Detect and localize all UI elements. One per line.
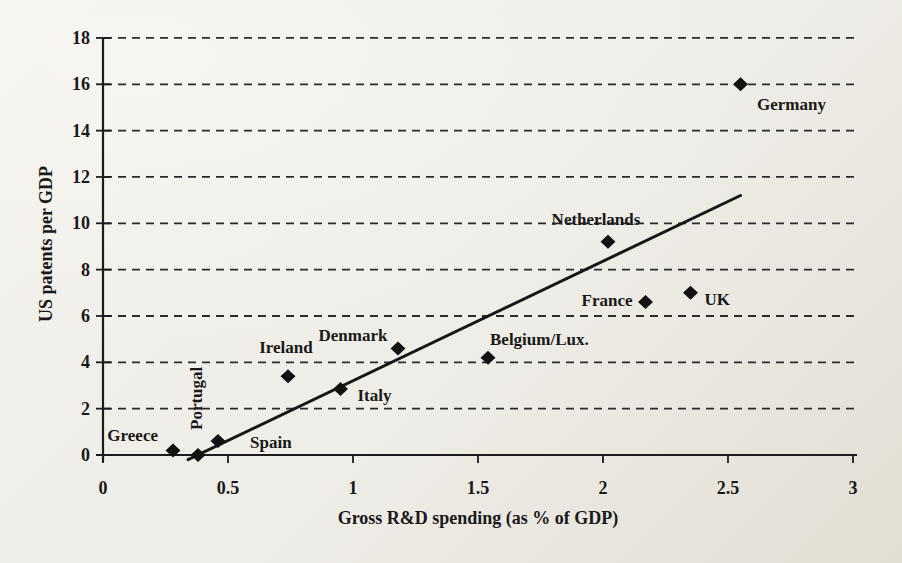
y-tick-label-10: 10 bbox=[72, 213, 90, 233]
y-tick-label-12: 12 bbox=[72, 167, 90, 187]
data-label-greece: Greece bbox=[107, 426, 158, 445]
data-label-portugal: Portugal bbox=[187, 366, 206, 430]
x-tick-label-0.5: 0.5 bbox=[217, 478, 240, 498]
x-tick-label-0: 0 bbox=[99, 478, 108, 498]
data-label-spain: Spain bbox=[250, 433, 292, 452]
data-label-ireland: Ireland bbox=[259, 338, 313, 357]
data-label-france: France bbox=[582, 291, 633, 310]
y-tick-label-14: 14 bbox=[72, 121, 90, 141]
y-tick-label-16: 16 bbox=[72, 74, 90, 94]
data-label-netherlands: Netherlands bbox=[552, 210, 641, 229]
x-tick-label-2.5: 2.5 bbox=[717, 478, 740, 498]
data-point-ireland bbox=[281, 369, 296, 383]
y-tick-label-2: 2 bbox=[81, 399, 90, 419]
y-tick-label-4: 4 bbox=[81, 352, 90, 372]
data-label-belgium-lux: Belgium/Lux. bbox=[490, 330, 589, 349]
data-point-spain bbox=[211, 434, 226, 448]
data-point-germany bbox=[733, 77, 748, 91]
x-tick-label-1: 1 bbox=[349, 478, 358, 498]
data-label-uk: UK bbox=[705, 290, 731, 309]
y-tick-label-8: 8 bbox=[81, 260, 90, 280]
data-point-netherlands bbox=[601, 235, 616, 249]
y-tick-label-6: 6 bbox=[81, 306, 90, 326]
x-tick-label-3: 3 bbox=[849, 478, 858, 498]
data-label-germany: Germany bbox=[757, 95, 826, 114]
y-tick-label-18: 18 bbox=[72, 28, 90, 48]
data-point-france bbox=[638, 295, 653, 309]
x-tick-label-1.5: 1.5 bbox=[467, 478, 490, 498]
y-axis-title: US patents per GDP bbox=[36, 166, 56, 322]
trend-line bbox=[188, 195, 741, 459]
data-label-italy: Italy bbox=[358, 386, 393, 405]
x-tick-label-2: 2 bbox=[599, 478, 608, 498]
data-point-portugal bbox=[191, 448, 206, 462]
y-tick-label-0: 0 bbox=[81, 445, 90, 465]
data-point-uk bbox=[683, 286, 698, 300]
data-point-denmark bbox=[391, 341, 406, 355]
data-label-denmark: Denmark bbox=[319, 326, 388, 345]
x-axis-title: Gross R&D spending (as % of GDP) bbox=[338, 508, 619, 529]
scatter-chart-figure: 02468101214161800.511.522.53Gross R&D sp… bbox=[0, 0, 902, 563]
chart-svg: 02468101214161800.511.522.53Gross R&D sp… bbox=[0, 0, 902, 563]
